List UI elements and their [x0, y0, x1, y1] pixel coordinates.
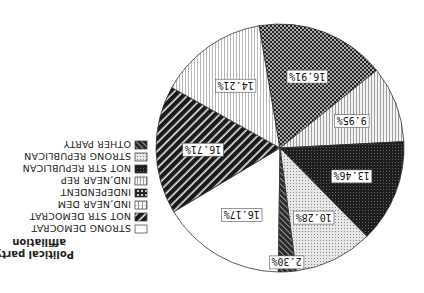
- legend-label: INDEPENDENT: [61, 187, 132, 198]
- legend-label: IND,NEAR DEM: [58, 199, 131, 210]
- legend-label: STRONG REPUBLICAN: [24, 151, 131, 162]
- slice-label: 14.21%: [218, 80, 254, 91]
- slice-label: 16.71%: [185, 144, 221, 155]
- legend-title-line2: affiliation: [12, 237, 66, 248]
- legend-swatch: [135, 177, 147, 185]
- legend-swatch: [135, 165, 147, 173]
- pie-chart: 16.17%16.71%14.21%16.91%9.95%13.46%10.28…: [0, 0, 424, 293]
- legend-label: IND,NEAR REP: [61, 175, 131, 186]
- legend-label: NOT STR REPUBLICAN: [22, 163, 131, 174]
- legend-label: OTHER PARTY: [64, 139, 131, 150]
- legend-title-line1: Political party: [0, 249, 74, 260]
- chart-stage: 16.17%16.71%14.21%16.91%9.95%13.46%10.28…: [0, 0, 424, 293]
- pie: 16.17%16.71%14.21%16.91%9.95%13.46%10.28…: [156, 24, 404, 272]
- slice-label: 2.30%: [272, 256, 302, 267]
- slice-label: 13.46%: [334, 170, 370, 181]
- legend-swatch: [135, 189, 147, 197]
- slice-label: 10.28%: [296, 212, 332, 223]
- slice-label: 16.17%: [224, 209, 260, 220]
- legend-swatch: [135, 225, 147, 233]
- legend-label: STRONG DEMOCRAT: [31, 223, 131, 234]
- legend: Political party affiliation STRONG DEMOC…: [0, 139, 147, 260]
- legend-swatch: [135, 213, 147, 221]
- legend-swatch: [135, 153, 147, 161]
- legend-swatch: [135, 201, 147, 209]
- rotated-chart-group: 16.17%16.71%14.21%16.91%9.95%13.46%10.28…: [0, 24, 404, 272]
- slice-label: 16.91%: [289, 71, 325, 82]
- legend-label: NOT STR DEMOCRAT: [30, 211, 131, 222]
- slice-label: 9.95%: [337, 115, 367, 126]
- legend-swatch: [135, 141, 147, 149]
